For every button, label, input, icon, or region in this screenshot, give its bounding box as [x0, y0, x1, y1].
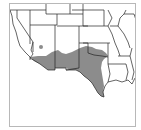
state-boundaries [10, 4, 136, 97]
isolated-population-dot [39, 45, 43, 49]
range-map [0, 0, 141, 130]
species-range-area [30, 46, 108, 97]
